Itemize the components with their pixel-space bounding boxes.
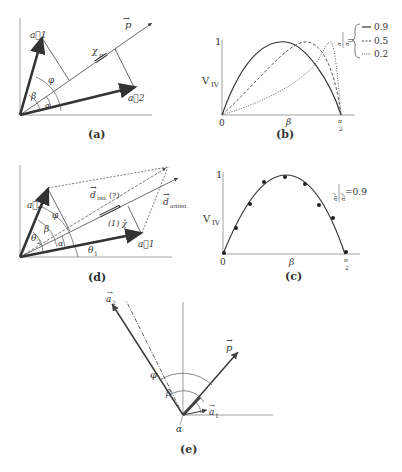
alpha-label: α xyxy=(45,101,51,110)
phi-label: φ xyxy=(150,369,157,380)
svg-text:a: a xyxy=(335,42,342,46)
x-origin: 0 xyxy=(220,257,226,267)
svg-text:→: → xyxy=(226,336,233,345)
d-aniso-sub: aniso. xyxy=(170,202,188,209)
a1-label: a⃗1 xyxy=(138,239,155,249)
x-beta: β xyxy=(285,117,291,127)
beta-label: β xyxy=(165,388,171,398)
beta-label: β xyxy=(30,91,36,101)
a2-vector xyxy=(112,304,183,415)
svg-text:1: 1 xyxy=(215,412,219,419)
beta-label: β xyxy=(43,224,49,234)
caption-a: (a) xyxy=(88,128,106,141)
curve-0.2 xyxy=(222,42,341,115)
a1-label: a⃗1 xyxy=(30,30,47,40)
d-iso-question: (?) xyxy=(109,191,120,200)
dash-dot-line xyxy=(115,301,194,415)
a2-projection xyxy=(115,49,134,87)
x-end-2: 2 xyxy=(339,125,343,132)
chi-p-label: χ xyxy=(91,46,98,56)
panel-e: a 2 → p → a 1 → φ β α (e) xyxy=(106,289,273,456)
svg-text:1: 1 xyxy=(94,250,98,257)
fit-curve xyxy=(223,175,345,254)
svg-text:a₁²: a₁² xyxy=(331,192,338,201)
caption-b: (b) xyxy=(276,128,294,141)
a1-projection xyxy=(42,38,69,80)
caption-c: (c) xyxy=(285,270,302,283)
alpha-label: α xyxy=(176,424,182,434)
x-end-2: 2 xyxy=(345,264,349,271)
legend-label-0.9: 0.9 xyxy=(374,22,389,32)
chi-label: (1) χ̂ xyxy=(108,219,128,228)
a1-vector xyxy=(20,38,42,115)
svg-text:=: = xyxy=(347,36,354,45)
svg-text:→: → xyxy=(107,289,113,297)
ratio-value: =0.9 xyxy=(345,187,367,197)
y-label: V xyxy=(202,213,211,224)
y-tick-1: 1 xyxy=(215,36,221,47)
svg-text:→: → xyxy=(123,14,130,23)
panel-b: 1 V IV 0 β π 2 a a = 0.9 0.5 0.2 (b) xyxy=(201,22,389,141)
x-end-pi: π xyxy=(337,117,343,124)
a2-vector xyxy=(20,87,135,115)
y-label: V xyxy=(201,75,210,86)
y-tick-1: 1 xyxy=(216,169,222,180)
panel-c: 1 V IV 0 β π 2 a₁² a₂² =0.9 (c) xyxy=(202,169,367,283)
legend-label-0.2: 0.2 xyxy=(374,49,388,59)
x-beta: β xyxy=(288,257,294,267)
figure-canvas: a⃗1 a⃗2 p → χ p β φ α (a) 1 V IV 0 β π 2… xyxy=(0,0,402,472)
chi-p-sub: p xyxy=(99,51,103,59)
a1-vector xyxy=(20,233,141,257)
alpha-label: α xyxy=(58,239,64,248)
curve-0.5 xyxy=(222,42,341,115)
svg-text:→: → xyxy=(209,402,215,410)
phi-label: φ xyxy=(52,210,59,220)
a2-label: a⃗2 xyxy=(27,200,44,210)
svg-text:2: 2 xyxy=(112,299,116,306)
svg-text:→: → xyxy=(163,190,170,199)
x-end-pi: π xyxy=(343,256,349,263)
y-label-sub: IV xyxy=(212,219,221,227)
ratio-fraction: a₁² a₂² xyxy=(331,184,346,202)
svg-text:→: → xyxy=(90,183,97,192)
curve-0.9 xyxy=(222,42,341,115)
panel-d: a⃗2 a⃗1 d → iso. (?) d → aniso. (1) χ̂ θ… xyxy=(20,165,188,284)
svg-text:2: 2 xyxy=(37,238,41,245)
panel-a: a⃗1 a⃗2 p → χ p β φ α (a) xyxy=(20,14,152,141)
a2-label: a⃗2 xyxy=(128,93,145,103)
caption-e: (e) xyxy=(180,443,197,456)
d-iso-sub: iso. xyxy=(97,194,108,201)
phi-label: φ xyxy=(48,75,55,85)
legend-label-0.5: 0.5 xyxy=(374,36,389,46)
caption-d: (d) xyxy=(88,271,106,284)
y-label-sub: IV xyxy=(211,81,220,89)
x-origin: 0 xyxy=(219,118,225,128)
